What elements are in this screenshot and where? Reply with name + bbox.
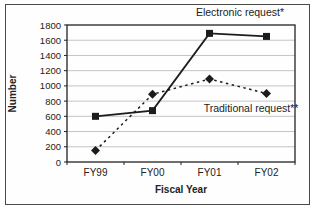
y-tick-label: 1800 [40, 20, 61, 31]
x-category-label: FY02 [255, 167, 279, 178]
marker-diamond [148, 90, 157, 99]
marker-diamond [91, 146, 100, 155]
y-axis-title: Number [7, 75, 18, 113]
y-tick-label: 400 [45, 126, 61, 137]
y-tick-label: 1400 [40, 50, 61, 61]
y-tick-label: 600 [45, 111, 61, 122]
marker-square [263, 33, 270, 40]
series-annotation-1: Traditional request** [204, 102, 299, 114]
marker-square [206, 30, 213, 37]
y-tick-label: 1200 [40, 65, 61, 76]
x-category-label: FY01 [198, 167, 222, 178]
marker-diamond [205, 75, 214, 84]
y-tick-label: 1600 [40, 35, 61, 46]
x-axis-title: Fiscal Year [155, 184, 207, 195]
series-annotation-0: Electronic request* [196, 6, 284, 18]
line-chart: 020040060080010001200140016001800FY99FY0… [0, 0, 316, 211]
plot-border [67, 25, 295, 162]
y-tick-label: 0 [56, 157, 61, 168]
marker-square [92, 113, 99, 120]
marker-diamond [262, 89, 271, 98]
y-tick-label: 200 [45, 141, 61, 152]
x-category-label: FY99 [84, 167, 108, 178]
x-category-label: FY00 [141, 167, 165, 178]
y-tick-label: 800 [45, 96, 61, 107]
series-line-1 [96, 79, 267, 151]
marker-square [149, 107, 156, 114]
y-tick-label: 1000 [40, 80, 61, 91]
chart-figure: 020040060080010001200140016001800FY99FY0… [0, 0, 316, 211]
